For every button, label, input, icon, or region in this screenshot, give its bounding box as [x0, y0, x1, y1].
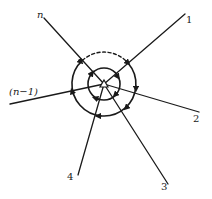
branch-label-1: 1	[186, 15, 192, 25]
branch-label-3: 3	[161, 182, 167, 192]
arrow-icon	[126, 61, 128, 63]
arrow-icon	[79, 60, 81, 62]
branch-label-n: n	[37, 10, 43, 20]
arrow-icon	[90, 73, 92, 76]
branch-4	[78, 84, 104, 175]
branch-label-4: 4	[67, 172, 73, 182]
outer-loop-dashed-arc	[83, 52, 129, 63]
diagram-graphic	[0, 0, 212, 199]
branch-3	[104, 84, 168, 184]
diagram-canvas: n 1 2 3 4 (n−1)	[0, 0, 212, 199]
branch-label-2: 2	[193, 114, 199, 124]
branch-label-n-minus-1: (n−1)	[9, 87, 38, 97]
branch-2	[104, 84, 199, 112]
